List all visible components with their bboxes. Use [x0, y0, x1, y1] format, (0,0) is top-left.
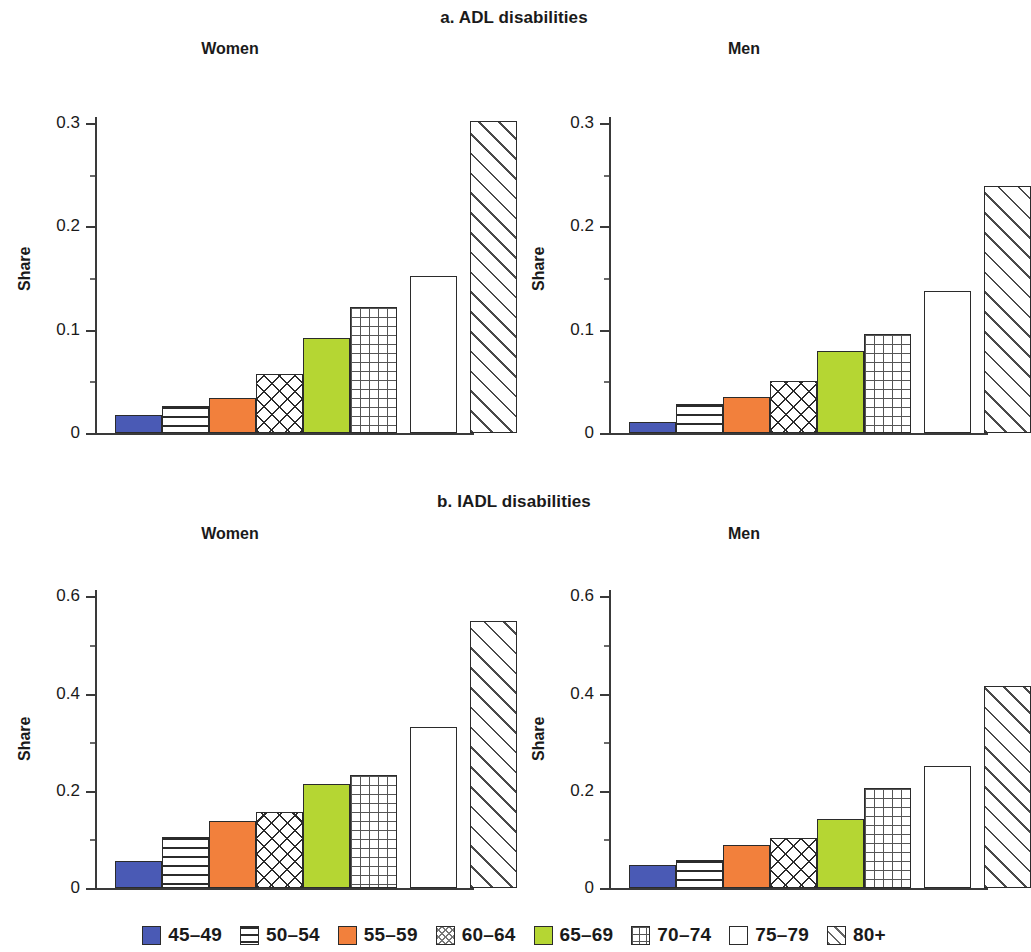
y-tick — [86, 596, 95, 598]
plot-area-iadl-men: 00.20.40.6Share — [514, 525, 1028, 925]
y-tick-label: 0.3 — [542, 113, 594, 133]
bar-60-64 — [256, 812, 303, 888]
y-tick-minor — [90, 278, 95, 280]
y-tick-label: 0.4 — [542, 684, 594, 704]
y-tick-minor — [90, 645, 95, 647]
bar-75-79 — [924, 766, 971, 888]
y-tick-minor — [604, 381, 609, 383]
bar-75-79 — [410, 276, 457, 433]
bar-65-69 — [303, 338, 350, 433]
y-tick-label: 0.3 — [28, 113, 80, 133]
bar-45-49 — [115, 861, 162, 888]
legend-item-65-69[interactable]: 65–69 — [534, 924, 614, 946]
legend-swatch-icon — [240, 926, 259, 945]
y-axis-line — [609, 117, 611, 433]
y-tick-minor — [604, 278, 609, 280]
bar-70-74 — [864, 788, 911, 888]
y-tick — [86, 226, 95, 228]
y-tick — [86, 330, 95, 332]
plot-area-adl-women: 00.10.20.3Share — [0, 40, 514, 470]
bar-70-74 — [350, 775, 397, 888]
bar-65-69 — [303, 784, 350, 888]
legend-label: 80+ — [853, 924, 886, 946]
y-tick-minor — [604, 175, 609, 177]
bar-55-59 — [723, 845, 770, 888]
legend-label: 75–79 — [755, 924, 809, 946]
y-tick-label: 0.1 — [542, 320, 594, 340]
bar-70-74 — [350, 307, 397, 433]
y-tick — [600, 123, 609, 125]
y-tick — [86, 123, 95, 125]
y-axis-line — [95, 117, 97, 433]
x-axis-line — [609, 433, 988, 435]
y-tick — [600, 226, 609, 228]
legend-item-55-59[interactable]: 55–59 — [338, 924, 418, 946]
bar-55-59 — [209, 398, 256, 433]
legend-swatch-icon — [338, 926, 357, 945]
bar-75-79 — [924, 291, 971, 433]
y-tick-label: 0.2 — [542, 781, 594, 801]
bar-45-49 — [629, 422, 676, 433]
legend-item-60-64[interactable]: 60–64 — [436, 924, 516, 946]
bar-75-79 — [410, 727, 457, 888]
subplot-adl-men: Men 00.10.20.3Share — [514, 40, 1028, 470]
bar-60-64 — [770, 838, 817, 888]
legend-swatch-icon — [142, 926, 161, 945]
y-tick-minor — [90, 175, 95, 177]
bar-80+ — [984, 686, 1031, 888]
bar-80+ — [470, 621, 517, 888]
legend-item-70-74[interactable]: 70–74 — [631, 924, 711, 946]
y-tick-label: 0.4 — [28, 684, 80, 704]
y-tick-label: 0 — [542, 878, 594, 898]
plot-area-iadl-women: 00.20.40.6Share — [0, 525, 514, 925]
legend-swatch-icon — [729, 926, 748, 945]
x-axis-line — [95, 433, 474, 435]
plot-area-adl-men: 00.10.20.3Share — [514, 40, 1028, 470]
y-tick-minor — [604, 645, 609, 647]
y-tick-label: 0.2 — [28, 781, 80, 801]
y-tick-label: 0 — [28, 423, 80, 443]
y-tick — [600, 433, 609, 435]
legend-item-75-79[interactable]: 75–79 — [729, 924, 809, 946]
bar-50-54 — [676, 404, 723, 433]
y-axis-label: Share — [16, 246, 34, 290]
legend-swatch-icon — [827, 926, 846, 945]
y-tick — [86, 791, 95, 793]
y-tick — [86, 694, 95, 696]
bar-45-49 — [629, 865, 676, 888]
bar-80+ — [984, 186, 1031, 433]
y-axis-label: Share — [530, 716, 548, 760]
legend: 45–4950–5455–5960–6465–6970–7475–7980+ — [0, 924, 1028, 946]
y-tick-minor — [604, 839, 609, 841]
y-tick-label: 0.1 — [28, 320, 80, 340]
y-tick — [600, 330, 609, 332]
y-axis-line — [609, 590, 611, 888]
bar-60-64 — [256, 374, 303, 433]
legend-label: 65–69 — [560, 924, 614, 946]
legend-item-80+[interactable]: 80+ — [827, 924, 886, 946]
bar-50-54 — [162, 406, 209, 433]
y-tick-label: 0.2 — [542, 216, 594, 236]
panel-title-a: a. ADL disabilities — [0, 8, 1028, 28]
legend-swatch-icon — [436, 926, 455, 945]
y-tick-label: 0 — [542, 423, 594, 443]
bar-80+ — [470, 121, 517, 433]
subplot-iadl-women: Women 00.20.40.6Share — [0, 525, 514, 925]
bar-55-59 — [723, 397, 770, 433]
y-tick-label: 0.6 — [542, 586, 594, 606]
legend-swatch-icon — [534, 926, 553, 945]
y-tick — [600, 888, 609, 890]
y-tick-minor — [90, 381, 95, 383]
legend-item-50-54[interactable]: 50–54 — [240, 924, 320, 946]
bar-70-74 — [864, 334, 911, 433]
y-tick-minor — [604, 742, 609, 744]
legend-item-45-49[interactable]: 45–49 — [142, 924, 222, 946]
legend-label: 45–49 — [168, 924, 222, 946]
y-tick — [600, 694, 609, 696]
bar-50-54 — [676, 860, 723, 888]
bar-60-64 — [770, 381, 817, 433]
bar-55-59 — [209, 821, 256, 888]
bar-50-54 — [162, 837, 209, 888]
y-tick-minor — [90, 839, 95, 841]
y-axis-label: Share — [16, 716, 34, 760]
